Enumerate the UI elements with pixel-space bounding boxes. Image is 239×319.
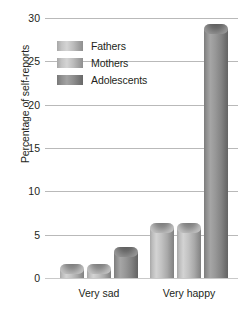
- y-tick-label-20: 20: [28, 99, 40, 111]
- bar-cap: [114, 247, 138, 257]
- bar-very-happy-mothers: [177, 223, 201, 278]
- x-tick-label-very-sad: Very sad: [79, 287, 120, 299]
- bar-very-sad-fathers: [60, 264, 84, 278]
- bar-cap: [87, 264, 111, 274]
- gridline-30: [45, 18, 238, 19]
- bar-cap: [150, 223, 174, 233]
- bar-body: [204, 29, 228, 278]
- bar-very-happy-fathers: [150, 223, 174, 278]
- x-tick-label-very-happy: Very happy: [163, 287, 216, 299]
- bar-very-happy-adolescents: [204, 24, 228, 278]
- y-tick-label-5: 5: [34, 229, 40, 241]
- gridline-0: [45, 278, 238, 279]
- legend-item-fathers: Fathers: [57, 37, 147, 54]
- y-tick-label-30: 30: [28, 12, 40, 24]
- y-tick-label-25: 25: [28, 55, 40, 67]
- y-tick-label-15: 15: [28, 142, 40, 154]
- bar-cap: [60, 264, 84, 274]
- y-tick-label-10: 10: [28, 185, 40, 197]
- bar-cap: [177, 223, 201, 233]
- bar-very-sad-adolescents: [114, 247, 138, 278]
- legend-label-fathers: Fathers: [91, 40, 126, 52]
- legend-item-mothers: Mothers: [57, 54, 147, 71]
- bar-chart: Percentage of self-reports 30 25 20 15 1…: [0, 0, 239, 319]
- legend-item-adolescents: Adolescents: [57, 71, 147, 88]
- legend-swatch-icon-adolescents: [57, 75, 83, 85]
- y-tick-label-0: 0: [34, 272, 40, 284]
- legend-swatch-icon-fathers: [57, 41, 83, 51]
- legend-swatch-icon-mothers: [57, 58, 83, 68]
- legend: Fathers Mothers Adolescents: [57, 37, 147, 88]
- bar-body: [150, 228, 174, 278]
- bar-body: [177, 228, 201, 278]
- bar-cap: [204, 24, 228, 34]
- legend-label-adolescents: Adolescents: [91, 74, 147, 86]
- legend-label-mothers: Mothers: [91, 57, 128, 69]
- bar-very-sad-mothers: [87, 264, 111, 278]
